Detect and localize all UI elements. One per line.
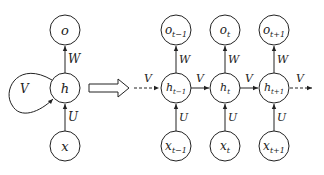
label-U: U — [68, 110, 79, 124]
label-V-out: V — [296, 72, 305, 85]
label-V-in: V — [144, 72, 153, 85]
edge-V-loop — [9, 73, 53, 113]
svg-text:W: W — [228, 53, 241, 66]
svg-text:U: U — [228, 111, 238, 124]
label-h: h — [61, 81, 69, 96]
unfold-arrow-icon — [89, 79, 129, 97]
label-V-1: V — [196, 72, 205, 85]
svg-text:W: W — [277, 53, 290, 66]
label-o: o — [61, 23, 69, 38]
step-t: ot ht xt W U — [210, 15, 241, 161]
folded-rnn: o h x W U V — [9, 15, 82, 161]
svg-text:W: W — [179, 53, 192, 66]
unfolded-rnn: V V V V ot−1 ht−1 xt−1 W U ot ht xt — [134, 15, 312, 161]
label-V-2: V — [245, 72, 254, 85]
step-t-minus-1: ot−1 ht−1 xt−1 W U — [161, 15, 192, 161]
rnn-diagram: o h x W U V V V V V ot−1 ht−1 xt−1 W — [0, 0, 324, 175]
svg-text:U: U — [179, 111, 189, 124]
label-W: W — [68, 52, 82, 66]
label-V: V — [20, 82, 30, 96]
svg-text:U: U — [277, 111, 287, 124]
label-x: x — [61, 139, 69, 154]
step-t-plus-1: ot+1 ht+1 xt+1 W U — [259, 15, 290, 161]
